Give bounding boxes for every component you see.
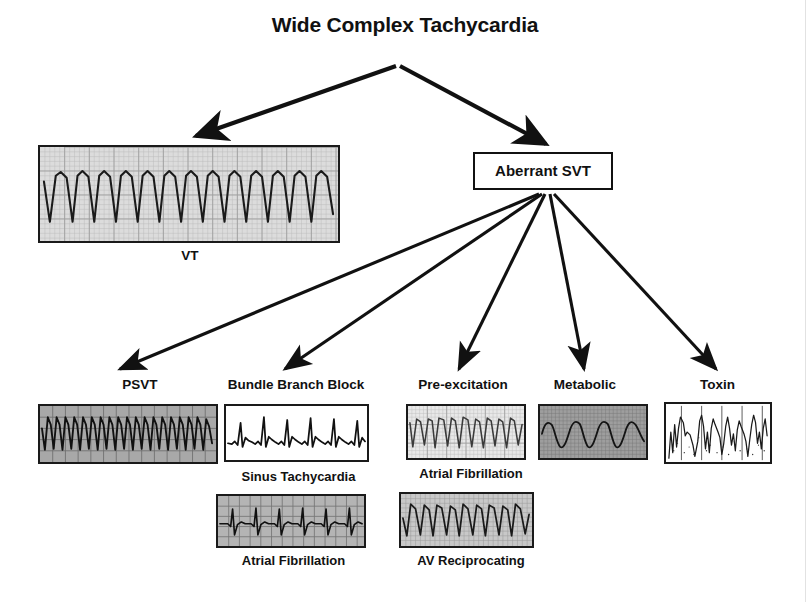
arrow-svt-to-pre-excitation — [459, 194, 545, 369]
caption-atrial-fibrillation-bbb: Atrial Fibrillation — [216, 553, 371, 568]
ecg-strip-sinus-tachycardia — [216, 494, 366, 548]
arrow-svt-to-toxin — [554, 194, 716, 369]
ecg-trace-atrial-fibrillation-pre — [401, 494, 532, 546]
diagram-canvas: Wide Complex Tachycardia — [0, 0, 810, 602]
caption-toxin: Toxin — [665, 377, 770, 392]
ecg-trace-sinus-tachycardia — [218, 496, 364, 546]
arrow-svt-to-metabolic — [550, 194, 584, 369]
ecg-trace-vt — [40, 147, 338, 241]
scan-edge-artifact — [805, 0, 806, 602]
caption-metabolic: Metabolic — [530, 377, 640, 392]
caption-atrial-fibrillation-pre: Atrial Fibrillation — [396, 466, 546, 481]
ecg-trace-pre-excitation — [408, 406, 524, 458]
caption-vt: VT — [110, 248, 270, 263]
caption-sinus-tachycardia: Sinus Tachycardia — [216, 469, 381, 484]
ecg-strip-psvt — [38, 404, 218, 464]
ecg-strip-bundle-branch-block — [224, 404, 369, 462]
caption-psvt: PSVT — [55, 377, 225, 392]
ecg-trace-bundle-branch-block — [226, 406, 367, 460]
caption-av-reciprocating: AV Reciprocating — [396, 553, 546, 568]
ecg-strip-atrial-fibrillation-pre — [399, 492, 534, 548]
arrow-title-to-vt — [196, 66, 396, 136]
caption-pre-excitation: Pre-excitation — [398, 377, 528, 392]
page-title: Wide Complex Tachycardia — [0, 13, 810, 37]
ecg-trace-toxin — [666, 404, 770, 462]
ecg-trace-psvt — [40, 406, 216, 462]
node-aberrant-svt[interactable]: Aberrant SVT — [473, 152, 613, 190]
ecg-strip-vt — [38, 145, 340, 243]
ecg-strip-toxin — [664, 402, 772, 464]
arrow-title-to-aberrant-svt — [400, 66, 546, 144]
ecg-strip-pre-excitation — [406, 404, 526, 460]
ecg-trace-metabolic — [540, 406, 646, 458]
ecg-strip-metabolic — [538, 404, 648, 460]
caption-bundle-branch-block: Bundle Branch Block — [216, 377, 376, 392]
